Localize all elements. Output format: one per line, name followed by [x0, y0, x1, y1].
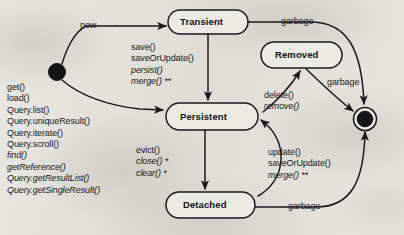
method-saveorupdate: saveOrUpdate() — [131, 53, 194, 64]
method-delete: delete() — [264, 90, 299, 101]
method-clear: clear() * — [136, 168, 168, 179]
method-find: find() — [7, 150, 100, 161]
transition-label-new: new — [80, 20, 96, 31]
method-getreference: getReference() — [7, 162, 100, 173]
edge-new — [62, 26, 116, 64]
method-persist: persist() — [131, 65, 194, 76]
state-removed-label: Removed — [275, 49, 318, 60]
transition-label-garbage-top: garbage — [281, 16, 313, 27]
method-query-scroll: Query.scroll() — [7, 139, 100, 150]
method-evict: evict() — [136, 145, 168, 156]
method-merge-reattach: merge() ** — [268, 170, 331, 181]
method-merge: merge() ** — [131, 76, 194, 87]
transition-label-load-group: get() load() Query.list() Query.uniqueRe… — [7, 82, 100, 196]
state-diagram-canvas: Transient Persistent Detached Removed ne… — [0, 0, 404, 235]
method-saveorupdate-reattach: saveOrUpdate() — [268, 158, 331, 169]
method-load: load() — [7, 93, 100, 104]
method-update: update() — [268, 147, 331, 158]
state-persistent-label: Persistent — [180, 111, 227, 122]
transition-label-garbage-bottom: garbage — [288, 201, 320, 212]
method-query-getsingleresult: Query.getSingleResult() — [7, 185, 100, 196]
transition-label-save-group: save() saveOrUpdate() persist() merge() … — [131, 42, 194, 88]
method-query-getresultlist: Query.getResultList() — [7, 173, 100, 184]
state-transient-label: Transient — [180, 16, 223, 27]
method-remove: remove() — [264, 101, 299, 112]
state-detached-label: Detached — [183, 199, 227, 210]
method-query-uniqueresult: Query.uniqueResult() — [7, 116, 100, 127]
transition-label-garbage-mid: garbage — [327, 77, 359, 88]
transition-label-detach-group: evict() close() * clear() * — [136, 145, 168, 179]
method-query-iterate: Query.iterate() — [7, 128, 100, 139]
transition-label-reattach-group: update() saveOrUpdate() merge() ** — [268, 147, 331, 181]
method-close: close() * — [136, 156, 168, 167]
transition-label-delete-group: delete() remove() — [264, 90, 299, 113]
final-state-center — [357, 111, 373, 127]
method-save: save() — [131, 42, 194, 53]
initial-state-dot — [49, 64, 66, 81]
method-get: get() — [7, 82, 100, 93]
edge-garbage-mid — [306, 69, 353, 111]
method-query-list: Query.list() — [7, 105, 100, 116]
